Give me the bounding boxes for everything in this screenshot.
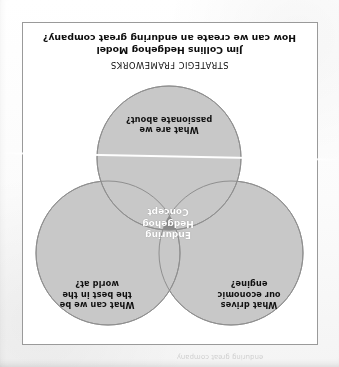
circle-label-passionate: What are we passionate about? [107, 114, 231, 135]
figure-caption: STRATEGIC FRAMEWORKS Jim Collins Hedgeho… [30, 31, 309, 71]
caption-title: Jim Collins Hedgehog Model [30, 44, 309, 56]
caption-eyebrow: STRATEGIC FRAMEWORKS [30, 59, 309, 71]
circle-label-best-in-world: What can we be the best in the world at? [45, 279, 149, 310]
page-content-rotated-180: What drives our economic engine? What ca… [0, 0, 339, 367]
venn-core-label: Enduring Hedgehog Concept [110, 206, 226, 240]
scanned-page: What drives our economic engine? What ca… [0, 0, 339, 367]
caption-question: How can we create an enduring great comp… [30, 31, 309, 43]
circle-label-economic-engine: What drives our economic engine? [201, 279, 297, 310]
